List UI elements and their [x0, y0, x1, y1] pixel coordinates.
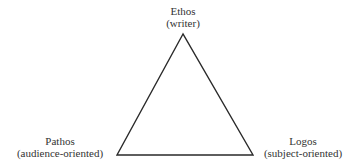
ethos-descriptor: (writer) [133, 17, 233, 29]
triangle-outline [117, 34, 253, 155]
pathos-name: Pathos [0, 135, 120, 147]
logos-name: Logos [252, 135, 354, 147]
ethos-name: Ethos [133, 5, 233, 17]
ethos-label: Ethos (writer) [133, 5, 233, 29]
logos-label: Logos (subject-oriented) [252, 135, 354, 159]
logos-descriptor: (subject-oriented) [252, 147, 354, 159]
rhetorical-triangle-diagram: Ethos (writer) Pathos (audience-oriented… [0, 0, 357, 168]
pathos-descriptor: (audience-oriented) [0, 147, 120, 159]
pathos-label: Pathos (audience-oriented) [0, 135, 120, 159]
